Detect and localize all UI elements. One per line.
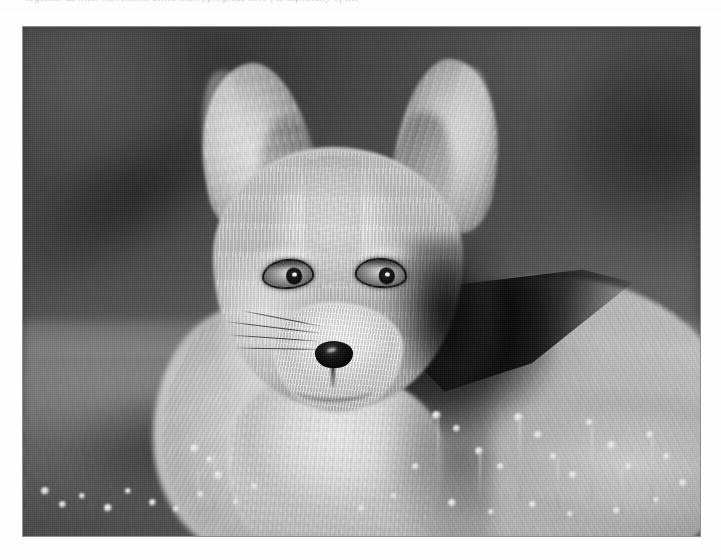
grass-flower bbox=[550, 453, 557, 460]
grass-flower bbox=[646, 431, 654, 439]
grass-flower bbox=[453, 425, 460, 432]
fox-right-cheek-shadow-core bbox=[411, 257, 481, 387]
grass-flower bbox=[251, 483, 258, 490]
grass-flower bbox=[497, 463, 504, 470]
grass-flower bbox=[190, 444, 199, 453]
grass-flower bbox=[358, 505, 365, 512]
grass-stem bbox=[213, 453, 215, 511]
page-canvas: together as their movement. Since then ,… bbox=[0, 0, 721, 560]
grass-flower bbox=[586, 419, 593, 426]
grass-flower bbox=[41, 487, 49, 495]
grass-flower bbox=[391, 493, 397, 499]
grass-stem bbox=[557, 459, 559, 509]
grass-flower bbox=[79, 493, 85, 499]
grass-flower bbox=[173, 506, 179, 512]
grass-flower bbox=[679, 479, 687, 487]
fox-philtrum bbox=[331, 365, 335, 387]
grass-flower bbox=[214, 471, 223, 480]
grass-flower bbox=[625, 463, 632, 470]
caption-text: together as their movement. Since then ,… bbox=[26, 0, 359, 3]
fox-nose bbox=[315, 341, 353, 368]
grass-flower bbox=[448, 499, 456, 507]
grass-flower bbox=[197, 491, 204, 498]
grass-stem bbox=[651, 439, 653, 503]
grass-flower bbox=[475, 447, 483, 455]
grass-stem bbox=[519, 421, 521, 499]
grass-flower bbox=[125, 488, 131, 494]
grass-flower bbox=[663, 453, 670, 460]
grass-flower bbox=[534, 431, 542, 439]
fox-subject bbox=[23, 27, 700, 536]
grass-stem bbox=[591, 427, 593, 499]
fox-left-brow bbox=[254, 245, 324, 259]
grass-flower bbox=[432, 411, 441, 420]
grass-flower bbox=[529, 501, 536, 508]
clipped-caption-strip: together as their movement. Since then ,… bbox=[0, 0, 721, 11]
grass-flower bbox=[567, 511, 573, 517]
grass-stem bbox=[621, 469, 623, 515]
grass-stem bbox=[479, 453, 481, 507]
grass-flower bbox=[59, 501, 66, 508]
grass-flower bbox=[206, 456, 213, 463]
grass-flower bbox=[412, 463, 419, 470]
photograph-frame bbox=[22, 26, 701, 537]
grass-stem bbox=[437, 419, 439, 489]
grass-flower bbox=[149, 499, 156, 506]
grass-flower bbox=[488, 509, 494, 515]
grass-flower bbox=[569, 471, 577, 479]
grass-flower bbox=[514, 413, 523, 422]
fox-photograph bbox=[23, 27, 700, 536]
grass-flower bbox=[613, 507, 620, 514]
grass-flower bbox=[607, 441, 616, 450]
grass-flower bbox=[653, 497, 659, 503]
grass-flower bbox=[233, 499, 239, 505]
grass-flower bbox=[104, 504, 112, 512]
fox-right-brow bbox=[349, 243, 419, 257]
